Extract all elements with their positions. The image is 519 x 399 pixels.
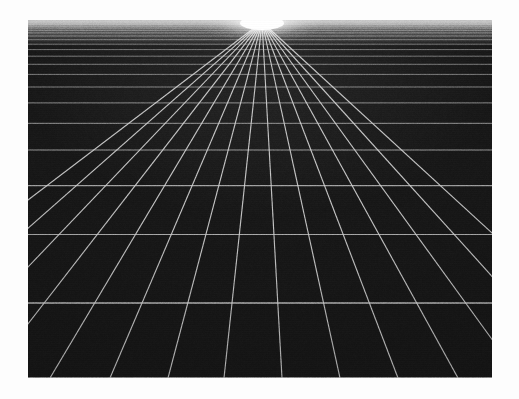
artwork-canvas: One-Point Perspective Grid [0,0,519,399]
radial-line-8 [262,22,282,378]
radial-line-6 [168,22,262,378]
radial-line-10 [262,22,398,378]
radial-line-0 [28,22,262,378]
radial-line-1 [28,22,262,378]
radial-lines [28,22,492,378]
radial-line-2 [28,22,262,378]
radial-line-5 [110,22,262,378]
radial-line-11 [262,22,458,378]
perspective-grid-plate [28,20,492,378]
perspective-grid [28,20,492,378]
radial-line-3 [28,22,262,378]
